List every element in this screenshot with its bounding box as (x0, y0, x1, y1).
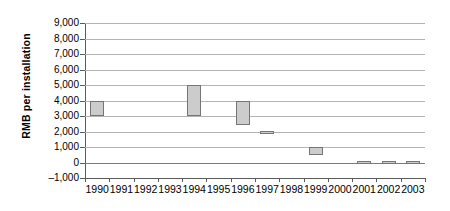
x-axis-tick-mark (279, 178, 280, 182)
x-axis-tick-mark (255, 178, 256, 182)
y-axis-tick-mark (80, 54, 85, 55)
x-axis-label-1992: 1992 (134, 183, 158, 195)
y-axis-tick-label: –1,000 (33, 173, 79, 183)
x-axis-label-1994: 1994 (182, 183, 206, 195)
x-axis-tick-mark (425, 178, 426, 182)
x-axis-tick-mark (231, 178, 232, 182)
y-axis-tick-label: 3,000 (33, 111, 79, 121)
y-axis-tick-label: 8,000 (33, 34, 79, 44)
x-axis-tick-mark (352, 178, 353, 182)
gridline (85, 147, 425, 148)
x-axis-tick-mark (182, 178, 183, 182)
y-axis-tick-label: 1,000 (33, 142, 79, 152)
gridline (85, 101, 425, 102)
x-axis-tick-mark (376, 178, 377, 182)
x-axis-tick-mark (134, 178, 135, 182)
y-axis-tick-mark (80, 39, 85, 40)
gridline (85, 39, 425, 40)
gridline (85, 54, 425, 55)
y-axis-tick-mark (80, 85, 85, 86)
y-axis-tick-label: 6,000 (33, 65, 79, 75)
y-axis-tick-mark (80, 70, 85, 71)
x-axis-label-2003: 2003 (401, 183, 425, 195)
x-axis-tick-mark (206, 178, 207, 182)
bar-1997 (260, 131, 274, 134)
gridline (85, 23, 425, 24)
y-axis-tick-label: 2,000 (33, 127, 79, 137)
y-axis-tick-label: 5,000 (33, 80, 79, 90)
gridline (85, 116, 425, 117)
gridline (85, 132, 425, 133)
x-axis-label-1993: 1993 (158, 183, 182, 195)
bar-1999 (309, 147, 323, 155)
y-axis-tick-label: 9,000 (33, 18, 79, 28)
x-axis-tick-mark (158, 178, 159, 182)
x-axis-label-1998: 1998 (279, 183, 303, 195)
plot-area (85, 23, 425, 178)
x-axis-label-1990: 1990 (85, 183, 109, 195)
x-axis-label-2001: 2001 (352, 183, 376, 195)
gridline (85, 70, 425, 71)
y-axis-tick-mark (80, 147, 85, 148)
bar-1996 (236, 101, 250, 126)
y-axis-title: RMB per installation (20, 16, 32, 156)
y-axis-tick-label: 4,000 (33, 96, 79, 106)
x-axis-label-1995: 1995 (206, 183, 230, 195)
x-axis-tick-mark (401, 178, 402, 182)
bar-2002 (382, 161, 396, 164)
bar-2001 (357, 161, 371, 164)
range-bar-chart: RMB per installation 9,0008,0007,0006,00… (0, 0, 450, 211)
y-axis-tick-label: 7,000 (33, 49, 79, 59)
x-axis-label-1991: 1991 (109, 183, 133, 195)
bar-2003 (406, 161, 420, 164)
gridline (85, 163, 425, 164)
y-axis-tick-mark (80, 101, 85, 102)
x-axis-tick-mark (304, 178, 305, 182)
gridline (85, 85, 425, 86)
bar-1994 (187, 85, 201, 116)
y-axis-tick-mark (80, 23, 85, 24)
x-axis-label-1999: 1999 (304, 183, 328, 195)
y-axis-tick-mark (80, 163, 85, 164)
x-axis-tick-mark (85, 178, 86, 182)
x-axis-label-1997: 1997 (255, 183, 279, 195)
x-axis-tick-mark (109, 178, 110, 182)
y-axis-tick-mark (80, 116, 85, 117)
bar-1990 (90, 101, 104, 117)
y-axis-tick-label: 0 (33, 158, 79, 168)
y-axis-tick-mark (80, 132, 85, 133)
x-axis-label-1996: 1996 (231, 183, 255, 195)
x-axis-label-2000: 2000 (328, 183, 352, 195)
x-axis-tick-mark (328, 178, 329, 182)
x-axis-label-2002: 2002 (376, 183, 400, 195)
